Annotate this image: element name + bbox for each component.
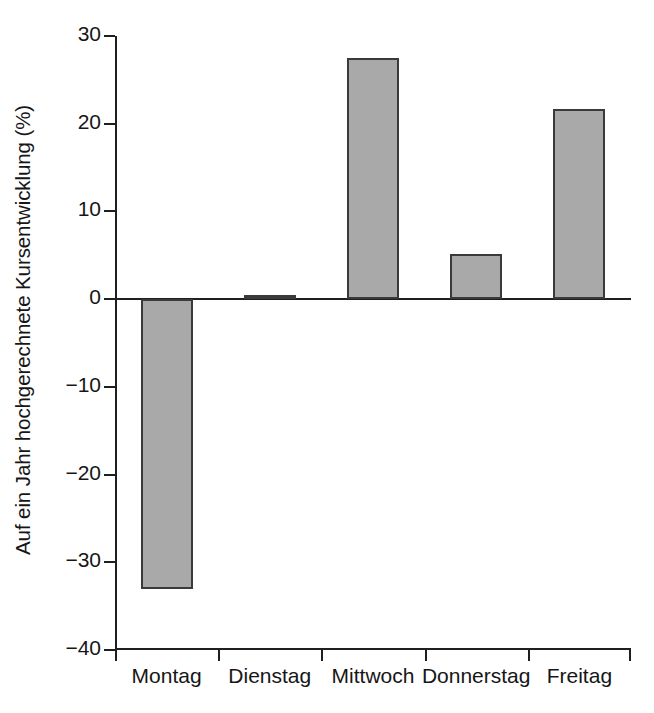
- y-tick-0: [104, 298, 115, 300]
- y-tick-label: −30: [65, 548, 101, 572]
- y-tick-neg20: [104, 474, 115, 476]
- bar-dienstag: [244, 295, 296, 299]
- x-tick-label-freitag: Freitag: [489, 664, 654, 688]
- y-tick-label: 20: [78, 110, 101, 134]
- bar-mittwoch: [347, 58, 399, 299]
- y-tick-neg30: [104, 561, 115, 563]
- y-tick-label: 30: [78, 22, 101, 46]
- y-tick-label: −40: [65, 636, 101, 660]
- y-axis-spine: [115, 36, 117, 650]
- y-axis-title-container: Auf ein Jahr hochgerechnete Kursentwickl…: [0, 0, 46, 660]
- bar-freitag: [553, 109, 605, 299]
- y-tick-neg10: [104, 386, 115, 388]
- x-tick-0: [115, 650, 117, 661]
- x-axis-spine: [115, 648, 631, 650]
- bar-chart-figure: Auf ein Jahr hochgerechnete Kursentwickl…: [0, 0, 654, 713]
- x-tick-2: [321, 650, 323, 661]
- y-tick-label: 0: [89, 285, 101, 309]
- x-tick-3: [425, 650, 427, 661]
- x-tick-5: [629, 650, 631, 661]
- y-tick-30: [104, 35, 115, 37]
- x-tick-4: [528, 650, 530, 661]
- x-tick-1: [218, 650, 220, 661]
- y-tick-10: [104, 210, 115, 212]
- y-tick-label: 10: [78, 197, 101, 221]
- plot-area: [115, 36, 631, 650]
- y-axis-title: Auf ein Jahr hochgerechnete Kursentwickl…: [11, 105, 35, 555]
- y-tick-label: −10: [65, 373, 101, 397]
- y-tick-20: [104, 123, 115, 125]
- bar-donnerstag: [450, 254, 502, 299]
- y-tick-neg40: [104, 649, 115, 651]
- bar-montag: [141, 299, 193, 588]
- y-tick-label: −20: [65, 461, 101, 485]
